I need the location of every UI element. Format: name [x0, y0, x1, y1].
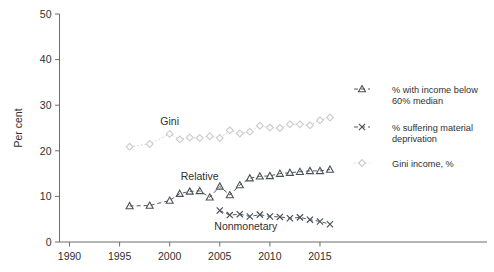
- diamond-marker: [287, 121, 294, 128]
- diamond-marker: [236, 130, 243, 137]
- diamond-marker: [359, 160, 366, 167]
- line-chart: 01020304050199019952000200520102015Per c…: [0, 0, 494, 272]
- x-tick-label: 1990: [58, 250, 82, 262]
- diamond-marker: [307, 122, 314, 129]
- y-tick-label: 40: [40, 53, 52, 65]
- diamond-marker: [216, 135, 223, 142]
- y-axis-title: Per cent: [12, 108, 24, 147]
- diamond-marker: [327, 114, 334, 121]
- diamond-marker: [206, 133, 213, 140]
- y-tick-label: 30: [40, 99, 52, 111]
- diamond-marker: [297, 121, 304, 128]
- diamond-marker: [196, 135, 203, 142]
- chart-legend: % with income below60% median% suffering…: [354, 85, 478, 169]
- triangle-marker: [306, 167, 313, 173]
- legend-label-line1: Gini income, %: [392, 159, 454, 169]
- diamond-marker: [146, 141, 153, 148]
- series-1: [126, 166, 333, 209]
- triangle-marker: [326, 166, 333, 172]
- series-markers: [126, 114, 333, 150]
- diamond-marker: [266, 124, 273, 131]
- y-tick-label: 50: [40, 8, 52, 20]
- legend-entry[interactable]: % with income below60% median: [354, 85, 478, 106]
- x-tick-label: 2005: [208, 250, 232, 262]
- legend-entry[interactable]: Gini income, %: [354, 159, 454, 169]
- series-3: [126, 114, 333, 150]
- y-tick-label: 0: [46, 236, 52, 248]
- series-markers: [126, 166, 333, 209]
- diamond-marker: [256, 122, 263, 129]
- x-tick-label: 2010: [258, 250, 282, 262]
- data-series: [126, 114, 333, 227]
- diamond-marker: [276, 125, 283, 132]
- y-tick-label: 10: [40, 190, 52, 202]
- x-tick-label: 1995: [108, 250, 132, 262]
- legend-label-line1: % suffering material: [392, 123, 473, 133]
- chart-container: 01020304050199019952000200520102015Per c…: [0, 0, 494, 272]
- triangle-marker: [166, 197, 173, 203]
- inline-label-nonmonetary: Nonmonetary: [214, 220, 278, 232]
- diamond-marker: [166, 131, 173, 138]
- inline-label-gini: Gini: [160, 115, 179, 127]
- diamond-marker: [246, 128, 253, 135]
- x-marker: [287, 215, 293, 221]
- x-marker: [227, 212, 233, 218]
- legend-label-line1: % with income below: [392, 85, 478, 95]
- diamond-marker: [126, 143, 133, 150]
- y-tick-label: 20: [40, 145, 52, 157]
- x-marker: [217, 207, 223, 213]
- x-tick-label: 2015: [308, 250, 332, 262]
- x-tick-label: 2000: [158, 250, 182, 262]
- diamond-marker: [186, 134, 193, 141]
- x-marker: [327, 221, 333, 227]
- inline-label-relative: Relative: [181, 170, 219, 182]
- diamond-marker: [317, 117, 324, 124]
- legend-label-line2: 60% median: [392, 96, 443, 106]
- legend-label-line2: deprivation: [392, 134, 437, 144]
- legend-entry[interactable]: % suffering materialdeprivation: [354, 123, 473, 144]
- diamond-marker: [176, 136, 183, 143]
